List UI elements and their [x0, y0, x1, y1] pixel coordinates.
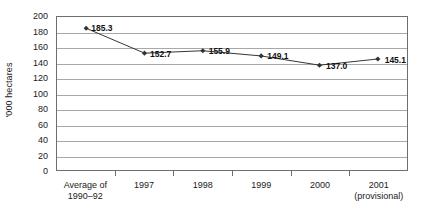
- data-point-marker: [259, 53, 264, 58]
- x-axis-tick-label-line1: 2000: [310, 180, 330, 190]
- y-axis-tick-label: 20: [38, 151, 48, 160]
- x-axis-tick: [173, 171, 174, 176]
- data-point-label: 155.9: [209, 47, 230, 56]
- data-point-marker: [142, 51, 147, 56]
- data-point-label: 145.1: [385, 55, 406, 64]
- x-axis-ticks: [56, 171, 408, 176]
- y-axis-tick-label: 140: [33, 58, 48, 67]
- x-axis-tick-label: Average of1990–92: [64, 180, 107, 202]
- y-axis-tick-label: 160: [33, 43, 48, 52]
- y-axis-tick-labels: 200180160140120100806040200: [16, 16, 52, 171]
- x-axis-tick-label: 1998: [193, 180, 213, 191]
- x-axis-tick-label: 1997: [134, 180, 154, 191]
- data-point-label: 149.1: [267, 52, 288, 61]
- y-axis-tick-label: 40: [38, 136, 48, 145]
- data-point-marker: [375, 56, 380, 61]
- x-axis-tick: [115, 171, 116, 176]
- x-axis-tick-label-line2: (provisional): [354, 191, 403, 202]
- data-point-label: 185.3: [91, 24, 112, 33]
- data-point-marker: [200, 48, 205, 53]
- x-axis-tick-label-line1: Average of: [64, 180, 107, 190]
- x-axis-tick-label: 2000: [310, 180, 330, 191]
- y-axis-tick-label: 80: [38, 105, 48, 114]
- data-point-label: 152.7: [150, 49, 171, 58]
- x-axis-tick-label-line1: 1998: [193, 180, 213, 190]
- x-axis-tick-label: 1999: [251, 180, 271, 191]
- x-axis-tick-label-line1: 1997: [134, 180, 154, 190]
- x-axis-tick-labels: Average of1990–9219971998199920002001(pr…: [56, 180, 408, 214]
- line-chart: '000 hectares 20018016014012010080604020…: [0, 0, 427, 221]
- y-axis-tick-label: 200: [33, 12, 48, 21]
- y-axis-tick-label: 180: [33, 27, 48, 36]
- x-axis-tick-label-line1: 2001: [369, 180, 389, 190]
- y-axis-tick-label: 120: [33, 74, 48, 83]
- x-axis-tick-label-line1: 1999: [251, 180, 271, 190]
- y-axis-title-text: '000 hectares: [4, 62, 14, 117]
- data-point-marker: [317, 63, 322, 68]
- x-axis-tick-label-line2: 1990–92: [64, 191, 107, 202]
- x-axis-tick: [291, 171, 292, 176]
- x-axis-tick: [349, 171, 350, 176]
- data-point-label: 137.0: [326, 61, 347, 70]
- x-axis-tick-label: 2001(provisional): [354, 180, 403, 202]
- y-axis-tick-label: 0: [43, 167, 48, 176]
- y-axis-tick-label: 60: [38, 120, 48, 129]
- data-point-marker: [84, 26, 89, 31]
- plot-area: 185.3152.7155.9149.1137.0145.1: [56, 16, 408, 171]
- y-axis-tick-label: 100: [33, 89, 48, 98]
- x-axis-tick: [232, 171, 233, 176]
- series-line: [57, 17, 407, 170]
